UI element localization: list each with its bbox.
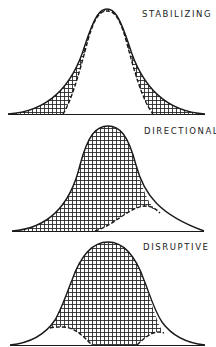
stabilizing-panel	[8, 9, 205, 115]
disruptive-label: DISRUPTIVE	[143, 242, 210, 252]
directional-label: DIRECTIONAL	[144, 126, 216, 136]
disruptive-panel	[10, 242, 205, 346]
directional-hatched-area	[12, 126, 160, 231]
stabilizing-original-curve	[8, 9, 205, 114]
stabilizing-label: STABILIZING	[142, 9, 212, 19]
selection-types-diagram	[0, 0, 216, 347]
directional-panel	[12, 126, 204, 232]
stabilizing-selected-curve	[63, 11, 153, 114]
stabilizing-hatched-area	[8, 9, 205, 114]
